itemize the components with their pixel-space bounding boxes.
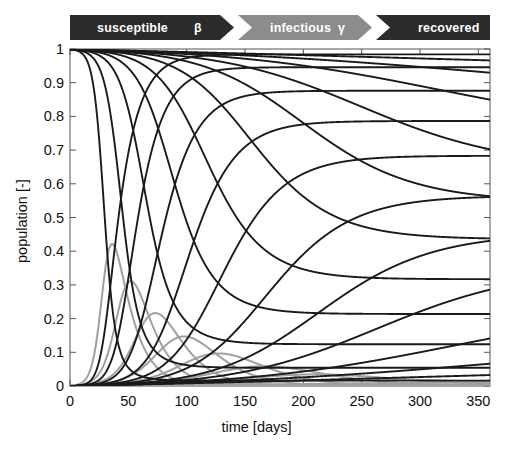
y-tick-label: 0.8 bbox=[20, 108, 64, 124]
x-tick-label: 0 bbox=[66, 393, 74, 409]
y-tick-label: 1 bbox=[20, 41, 64, 57]
x-axis-title: time [days] bbox=[0, 419, 513, 435]
x-tick-label: 250 bbox=[350, 393, 374, 409]
y-tick-label: 0.9 bbox=[20, 75, 64, 91]
sir-plot-canvas bbox=[0, 0, 513, 456]
x-tick-label: 100 bbox=[175, 393, 199, 409]
y-tick-label: 0.1 bbox=[20, 344, 64, 360]
y-tick-label: 0.7 bbox=[20, 142, 64, 158]
plot-axes-frame bbox=[70, 49, 490, 386]
x-tick-label: 300 bbox=[408, 393, 432, 409]
x-tick-label: 50 bbox=[120, 393, 136, 409]
y-tick-label: 0.3 bbox=[20, 277, 64, 293]
sir-model-figure: susceptible β infectious γ recovered 00.… bbox=[0, 0, 513, 456]
x-tick-label: 200 bbox=[291, 393, 315, 409]
y-tick-label: 0.2 bbox=[20, 311, 64, 327]
x-tick-label: 150 bbox=[233, 393, 257, 409]
y-tick-label: 0 bbox=[20, 378, 64, 394]
x-tick-label: 350 bbox=[466, 393, 490, 409]
y-axis-title: population [-] bbox=[14, 179, 30, 263]
